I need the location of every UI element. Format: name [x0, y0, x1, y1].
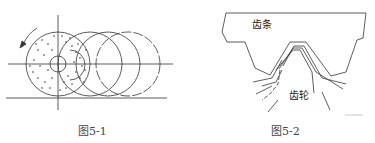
rotation-arrow — [23, 28, 37, 45]
rack-outline — [222, 13, 366, 76]
arrow-head-icon — [20, 41, 26, 48]
gear-profile-left-4 — [268, 100, 278, 112]
gear-profile-left-3 — [256, 86, 272, 94]
gear-profile-right-4 — [322, 92, 330, 110]
figure-5-2-caption: 图5-2 — [271, 122, 300, 138]
rack-tooth — [270, 42, 331, 76]
diagram-canvas: 齿条 齿轮 — [0, 0, 375, 143]
figure-5-1 — [6, 15, 173, 110]
figure-5-1-caption: 图5-1 — [78, 122, 107, 138]
gear-label: 齿轮 — [289, 89, 309, 101]
rack-label: 齿条 — [252, 18, 272, 30]
gear-profile-2 — [279, 48, 343, 89]
gear-profile-1 — [283, 46, 346, 84]
